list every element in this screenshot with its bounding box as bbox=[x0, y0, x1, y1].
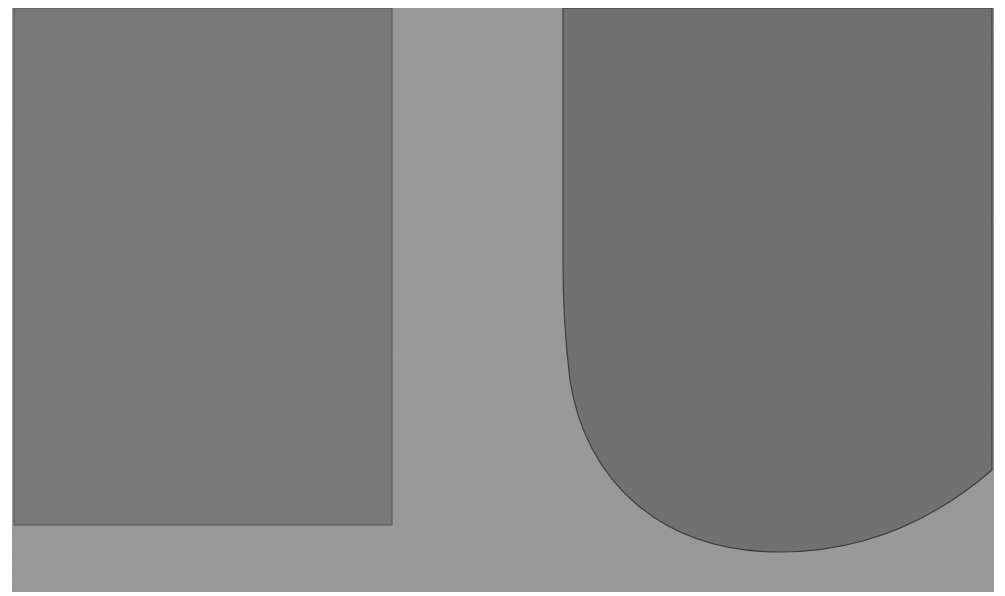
left-rectangle bbox=[14, 8, 392, 525]
artwork-svg bbox=[0, 0, 1005, 596]
right-u-form bbox=[563, 8, 992, 552]
artwork bbox=[0, 0, 1005, 596]
